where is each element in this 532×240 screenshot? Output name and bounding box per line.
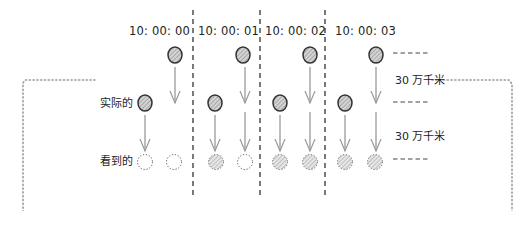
hatched-circle-icon	[138, 95, 152, 111]
empty-dotted-circle-icon	[138, 155, 153, 170]
arrow-down-icon	[170, 67, 180, 103]
arrow-down-icon	[305, 67, 315, 103]
faded-hatched-circle-icon	[273, 155, 288, 170]
dotted-bracket-right	[432, 80, 512, 211]
hatched-circle-icon	[273, 95, 287, 111]
hatched-circle-icon	[338, 95, 352, 111]
row-label-seen: 看到的	[100, 156, 133, 167]
empty-dotted-circle-icon	[238, 155, 253, 170]
hatched-circle-icon	[168, 47, 182, 63]
distance-label-1: 30 万千米	[395, 131, 446, 142]
time-label-2: 10: 00: 02	[265, 26, 326, 38]
arrow-down-icon	[210, 115, 220, 151]
faded-hatched-circle-icon	[209, 155, 224, 170]
arrow-down-icon	[371, 112, 381, 151]
hatched-circle-icon	[208, 95, 222, 111]
hatched-circle-icon	[236, 47, 250, 63]
arrow-down-icon	[305, 112, 315, 151]
hatched-circle-icon	[303, 47, 317, 63]
faded-hatched-circle-icon	[303, 155, 318, 170]
time-label-0: 10: 00: 00	[129, 26, 190, 38]
arrow-down-icon	[240, 67, 250, 103]
arrow-down-icon	[371, 67, 381, 103]
empty-dotted-circle-icon	[167, 155, 182, 170]
row-label-actual: 实际的	[100, 98, 133, 109]
hatched-circle-icon	[369, 47, 383, 63]
time-label-1: 10: 00: 01	[198, 26, 259, 38]
dotted-bracket-left	[23, 80, 95, 211]
arrow-down-icon	[240, 112, 250, 151]
time-label-3: 10: 00: 03	[335, 26, 396, 38]
faded-hatched-circle-icon	[338, 155, 353, 170]
faded-hatched-circle-icon	[368, 155, 383, 170]
arrow-down-icon	[140, 115, 150, 151]
arrow-down-icon	[275, 115, 285, 151]
level-marks	[393, 53, 430, 159]
arrow-down-icon	[340, 115, 350, 151]
distance-label-0: 30 万千米	[395, 75, 446, 86]
